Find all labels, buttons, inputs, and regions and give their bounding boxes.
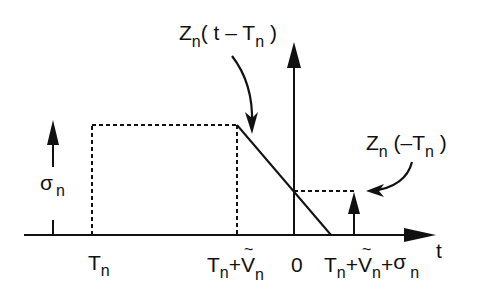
svg-text:Tn+Vn+σn: Tn+Vn+σn <box>324 250 419 281</box>
label-sigma: σn <box>40 171 65 199</box>
tick-label-tn-plus-vn: Tn+Vn ~ <box>207 241 264 283</box>
vertical-axis <box>287 42 301 235</box>
label-z-shifted: Zn( t – Tn ) <box>179 21 277 50</box>
curved-arrow-icon <box>366 184 384 197</box>
z-value-impulse <box>348 192 360 235</box>
tilde-mark: ~ <box>362 241 371 258</box>
up-arrow-icon <box>348 192 360 214</box>
pointer-arrow-ramp <box>232 56 258 134</box>
tick-label-zero: 0 <box>291 253 303 276</box>
axis-arrow-icon <box>404 228 436 242</box>
pointer-arrow-z <box>366 162 412 197</box>
axis-label-t: t <box>436 239 442 262</box>
diagram-canvas: Zn( t – Tn ) Zn (–Tn ) σn t 0 Tn Tn+Vn ~… <box>0 0 481 305</box>
dotted-pulse <box>92 125 354 235</box>
tick-label-tn-plus-vn-plus-sigma: Tn+Vn+σn ~ <box>324 241 419 281</box>
tilde-mark: ~ <box>244 241 253 258</box>
svg-text:Tn+Vn: Tn+Vn <box>207 253 264 283</box>
up-arrow-icon <box>47 120 59 145</box>
time-axis <box>24 228 436 242</box>
timing-diagram: Zn( t – Tn ) Zn (–Tn ) σn t 0 Tn Tn+Vn ~… <box>0 0 481 305</box>
tick-label-tn: Tn <box>88 251 110 279</box>
ramp-line <box>237 125 331 235</box>
vertical-axis-arrow-icon <box>287 42 301 68</box>
label-z-at-zero: Zn (–Tn ) <box>366 131 447 160</box>
